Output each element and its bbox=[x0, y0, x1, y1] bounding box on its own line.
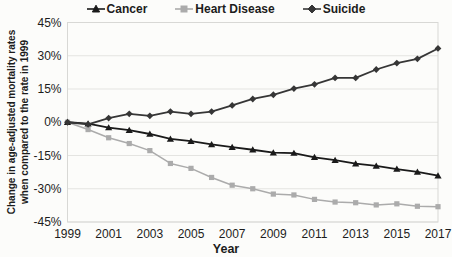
square-marker-icon bbox=[332, 199, 337, 204]
series-line-suicide bbox=[68, 48, 439, 124]
y-tick-label: 0% bbox=[44, 115, 62, 129]
diamond-marker-icon bbox=[270, 91, 277, 98]
diamond-marker-icon bbox=[414, 55, 421, 62]
x-tick-label: 2011 bbox=[302, 227, 328, 241]
square-marker-icon bbox=[147, 148, 152, 153]
x-tick-label: 2005 bbox=[178, 227, 205, 241]
diamond-marker-icon bbox=[188, 110, 195, 117]
diamond-marker-icon bbox=[435, 45, 442, 52]
y-tick-label: 45% bbox=[37, 16, 61, 30]
x-tick-label: 2015 bbox=[383, 227, 410, 241]
square-marker-icon bbox=[209, 175, 214, 180]
square-marker-icon bbox=[415, 204, 420, 209]
diamond-marker-icon bbox=[126, 110, 133, 117]
square-marker-icon bbox=[188, 166, 193, 171]
x-tick-label: 2001 bbox=[95, 227, 122, 241]
y-tick-label: -15% bbox=[33, 149, 61, 163]
x-axis-title: Year bbox=[0, 242, 452, 256]
diamond-marker-icon bbox=[373, 66, 380, 73]
series-line-heart-disease bbox=[68, 122, 439, 206]
square-marker-icon bbox=[312, 197, 317, 202]
mortality-chart-svg: 45%30%15%0%-15%-30%-45%19992001200320052… bbox=[0, 0, 452, 257]
x-tick-label: 2017 bbox=[425, 227, 452, 241]
diamond-marker-icon bbox=[105, 115, 112, 122]
square-marker-icon bbox=[394, 201, 399, 206]
square-marker-icon bbox=[374, 202, 379, 207]
square-marker-icon bbox=[230, 183, 235, 188]
x-tick-label: 2013 bbox=[342, 227, 369, 241]
square-marker-icon bbox=[435, 204, 440, 209]
diamond-marker-icon bbox=[167, 108, 174, 115]
square-marker-icon bbox=[250, 186, 255, 191]
x-tick-label: 1999 bbox=[54, 227, 81, 241]
diamond-marker-icon bbox=[208, 108, 215, 115]
square-marker-icon bbox=[127, 141, 132, 146]
y-tick-label: -30% bbox=[33, 182, 61, 196]
y-tick-label: 15% bbox=[37, 82, 61, 96]
diamond-marker-icon bbox=[393, 60, 400, 67]
diamond-marker-icon bbox=[249, 96, 256, 103]
y-tick-label: 30% bbox=[37, 49, 61, 63]
x-tick-label: 2003 bbox=[136, 227, 163, 241]
square-marker-icon bbox=[271, 191, 276, 196]
x-tick-label: 2007 bbox=[219, 227, 246, 241]
x-tick-label: 2009 bbox=[260, 227, 287, 241]
diamond-marker-icon bbox=[332, 75, 339, 82]
square-marker-icon bbox=[353, 200, 358, 205]
diamond-marker-icon bbox=[352, 75, 359, 82]
diamond-marker-icon bbox=[291, 85, 298, 92]
square-marker-icon bbox=[291, 192, 296, 197]
diamond-marker-icon bbox=[229, 102, 236, 109]
mortality-trend-figure: Cancer Heart Disease Suicide Change in a… bbox=[0, 0, 452, 257]
square-marker-icon bbox=[168, 161, 173, 166]
diamond-marker-icon bbox=[311, 81, 318, 88]
diamond-marker-icon bbox=[146, 112, 153, 119]
square-marker-icon bbox=[106, 135, 111, 140]
